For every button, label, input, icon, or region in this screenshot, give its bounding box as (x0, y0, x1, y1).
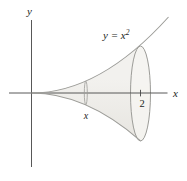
y-axis-label: y (26, 5, 32, 17)
curve-equation-label: y = x2 (102, 28, 130, 41)
x-tick-2-label: 2 (139, 98, 144, 109)
curve-equation-exponent: 2 (126, 28, 130, 37)
solid-of-revolution-figure: y x y = x2 2 x (0, 0, 187, 181)
curve-equation-base: y = x (102, 29, 126, 41)
diagram-canvas: y x y = x2 2 x (0, 0, 187, 181)
slice-position-label: x (83, 110, 89, 121)
x-axis-label: x (172, 87, 178, 99)
